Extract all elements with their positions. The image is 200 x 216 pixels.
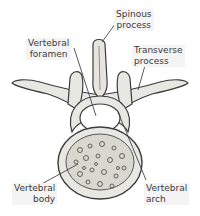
label-transverse-process: Transverse process xyxy=(132,45,185,67)
vertebra-diagram: Spinous process Vertebral foramen Transv… xyxy=(0,0,200,216)
label-vertebral-body: Vertebral body xyxy=(12,183,57,205)
label-vertebral-foramen: Vertebral foramen xyxy=(26,38,71,60)
label-spinous-process: Spinous process xyxy=(114,9,154,31)
label-vertebral-arch: Vertebral arch xyxy=(144,183,189,205)
